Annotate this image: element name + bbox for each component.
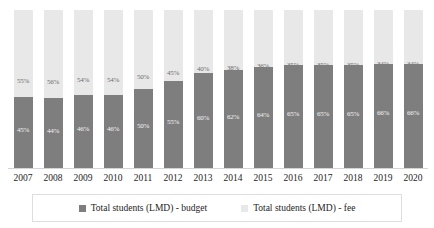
bar-value-label-fee: 56% xyxy=(47,79,59,86)
bar-stack[interactable]: 35%65% xyxy=(284,10,303,168)
bar-value-label-fee: 54% xyxy=(77,77,89,84)
bar-group[interactable]: 35%65% xyxy=(338,10,368,168)
bar-segment-budget[interactable]: 46% xyxy=(74,95,93,168)
bar-stack[interactable]: 54%46% xyxy=(74,10,93,168)
bar-segment-fee[interactable]: 35% xyxy=(344,10,363,65)
bar-segment-fee[interactable]: 56% xyxy=(44,10,63,98)
bar-segment-fee[interactable]: 40% xyxy=(194,10,213,73)
bar-group[interactable]: 35%65% xyxy=(278,10,308,168)
bar-stack[interactable]: 55%45% xyxy=(14,10,33,168)
bar-stack[interactable]: 45%55% xyxy=(164,10,183,168)
bar-segment-fee[interactable]: 35% xyxy=(314,10,333,65)
bar-stack[interactable]: 34%66% xyxy=(374,10,393,168)
legend-swatch-icon xyxy=(79,205,86,212)
bar-group[interactable]: 35%65% xyxy=(308,10,338,168)
bar-group[interactable]: 34%66% xyxy=(368,10,398,168)
bar-value-label-budget: 65% xyxy=(347,111,359,118)
x-axis-tick-label: 2011 xyxy=(128,170,158,186)
chart-legend: Total students (LMD) - budgetTotal stude… xyxy=(32,194,402,222)
bar-value-label-budget: 44% xyxy=(47,128,59,135)
x-axis-tick-label: 2014 xyxy=(218,170,248,186)
bar-stack[interactable]: 40%60% xyxy=(194,10,213,168)
bar-value-label-fee: 54% xyxy=(107,77,119,84)
legend-item-label: Total students (LMD) - budget xyxy=(91,203,207,213)
bar-value-label-budget: 65% xyxy=(287,111,299,118)
bar-value-label-budget: 45% xyxy=(17,127,29,134)
bar-value-label-budget: 50% xyxy=(137,123,149,130)
bar-segment-budget[interactable]: 45% xyxy=(14,97,33,168)
bar-group[interactable]: 56%44% xyxy=(38,10,68,168)
legend-swatch-icon xyxy=(241,205,248,212)
bar-segment-budget[interactable]: 65% xyxy=(344,65,363,168)
legend-item[interactable]: Total students (LMD) - budget xyxy=(79,203,207,213)
bar-value-label-budget: 65% xyxy=(317,111,329,118)
bar-value-label-fee: 45% xyxy=(167,70,179,77)
bar-stack[interactable]: 35%65% xyxy=(314,10,333,168)
x-axis-tick-label: 2008 xyxy=(38,170,68,186)
bar-value-label-budget: 60% xyxy=(197,115,209,122)
bar-value-label-budget: 66% xyxy=(377,110,389,117)
stacked-bar-chart: 55%45%56%44%54%46%54%46%50%50%45%55%40%6… xyxy=(0,0,434,228)
bar-segment-fee[interactable]: 34% xyxy=(374,10,393,64)
bar-segment-budget[interactable]: 65% xyxy=(314,65,333,168)
x-axis-tick-label: 2009 xyxy=(68,170,98,186)
bar-stack[interactable]: 35%65% xyxy=(344,10,363,168)
bar-value-label-budget: 46% xyxy=(77,126,89,133)
bar-segment-budget[interactable]: 55% xyxy=(164,81,183,168)
x-axis-tick-label: 2019 xyxy=(368,170,398,186)
bar-stack[interactable]: 54%46% xyxy=(104,10,123,168)
bar-segment-budget[interactable]: 64% xyxy=(254,67,273,168)
bar-value-label-fee: 50% xyxy=(137,74,149,81)
bar-stack[interactable]: 56%44% xyxy=(44,10,63,168)
bar-group[interactable]: 40%60% xyxy=(188,10,218,168)
bar-value-label-fee: 40% xyxy=(197,66,209,73)
bar-segment-fee[interactable]: 38% xyxy=(224,10,243,70)
bar-segment-budget[interactable]: 66% xyxy=(374,64,393,168)
bar-segment-budget[interactable]: 50% xyxy=(134,89,153,168)
plot-area: 55%45%56%44%54%46%54%46%50%50%45%55%40%6… xyxy=(8,10,428,168)
x-axis-tick-label: 2016 xyxy=(278,170,308,186)
bar-group[interactable]: 36%64% xyxy=(248,10,278,168)
bar-stack[interactable]: 50%50% xyxy=(134,10,153,168)
bar-segment-fee[interactable]: 36% xyxy=(254,10,273,67)
bar-segment-budget[interactable]: 44% xyxy=(44,98,63,168)
bar-group[interactable]: 54%46% xyxy=(68,10,98,168)
bar-group[interactable]: 45%55% xyxy=(158,10,188,168)
bar-segment-fee[interactable]: 54% xyxy=(74,10,93,95)
bar-segment-fee[interactable]: 45% xyxy=(164,10,183,81)
bar-segment-budget[interactable]: 46% xyxy=(104,95,123,168)
bar-segment-fee[interactable]: 55% xyxy=(14,10,33,97)
x-axis-tick-label: 2012 xyxy=(158,170,188,186)
bar-value-label-budget: 66% xyxy=(407,110,419,117)
x-axis-tick-label: 2013 xyxy=(188,170,218,186)
bar-segment-budget[interactable]: 66% xyxy=(404,64,423,168)
x-axis-line xyxy=(8,168,428,169)
bar-segment-fee[interactable]: 54% xyxy=(104,10,123,95)
bar-stack[interactable]: 36%64% xyxy=(254,10,273,168)
bar-stack[interactable]: 34%66% xyxy=(404,10,423,168)
x-axis-tick-label: 2010 xyxy=(98,170,128,186)
bar-group[interactable]: 54%46% xyxy=(98,10,128,168)
bar-segment-fee[interactable]: 35% xyxy=(284,10,303,65)
x-axis-tick-labels: 2007200820092010201120122013201420152016… xyxy=(8,170,428,186)
x-axis-tick-label: 2017 xyxy=(308,170,338,186)
bar-segment-fee[interactable]: 34% xyxy=(404,10,423,64)
x-axis-tick-label: 2018 xyxy=(338,170,368,186)
bar-segment-budget[interactable]: 62% xyxy=(224,70,243,168)
bar-group[interactable]: 50%50% xyxy=(128,10,158,168)
bar-value-label-budget: 55% xyxy=(167,119,179,126)
bar-stack[interactable]: 38%62% xyxy=(224,10,243,168)
bar-value-label-budget: 62% xyxy=(227,114,239,121)
x-axis-tick-label: 2007 xyxy=(8,170,38,186)
bar-group[interactable]: 34%66% xyxy=(398,10,428,168)
x-axis-tick-label: 2020 xyxy=(398,170,428,186)
legend-item[interactable]: Total students (LMD) - fee xyxy=(241,203,355,213)
bar-segment-budget[interactable]: 60% xyxy=(194,73,213,168)
bar-segment-budget[interactable]: 65% xyxy=(284,65,303,168)
bar-segment-fee[interactable]: 50% xyxy=(134,10,153,89)
bar-group[interactable]: 38%62% xyxy=(218,10,248,168)
x-axis-tick-label: 2015 xyxy=(248,170,278,186)
bar-group[interactable]: 55%45% xyxy=(8,10,38,168)
bar-value-label-budget: 64% xyxy=(257,112,269,119)
bar-value-label-fee: 55% xyxy=(17,78,29,85)
